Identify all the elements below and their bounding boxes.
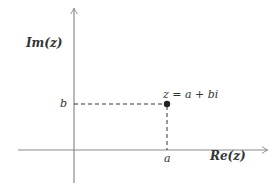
- x-tick-label-a: a: [164, 153, 171, 164]
- complex-plane-diagram: Im(z) Re(z) z = a + bi b a: [0, 0, 278, 189]
- real-axis-label: Re(z): [210, 150, 246, 162]
- imaginary-axis: [71, 8, 78, 183]
- imaginary-axis-label: Im(z): [26, 37, 62, 49]
- point-z-marker: [164, 101, 170, 107]
- y-tick-label-b: b: [60, 98, 67, 109]
- point-z-label: z = a + bi: [163, 89, 218, 100]
